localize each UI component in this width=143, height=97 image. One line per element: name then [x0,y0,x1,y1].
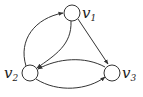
label-v2: v2 [4,64,18,83]
edge-v2-v3 [36,77,105,88]
node-v2 [22,65,38,81]
label-v3: v3 [122,64,136,83]
node-v3 [104,65,120,81]
edge-v1-v3 [78,19,108,64]
graph-diagram: v1 v2 v3 [0,0,143,97]
edge-v1-v2 [37,21,71,68]
label-v1: v1 [82,4,96,23]
node-v1 [64,5,80,21]
edge-v2-v1 [24,13,63,66]
edge-v3-v2 [38,60,105,69]
